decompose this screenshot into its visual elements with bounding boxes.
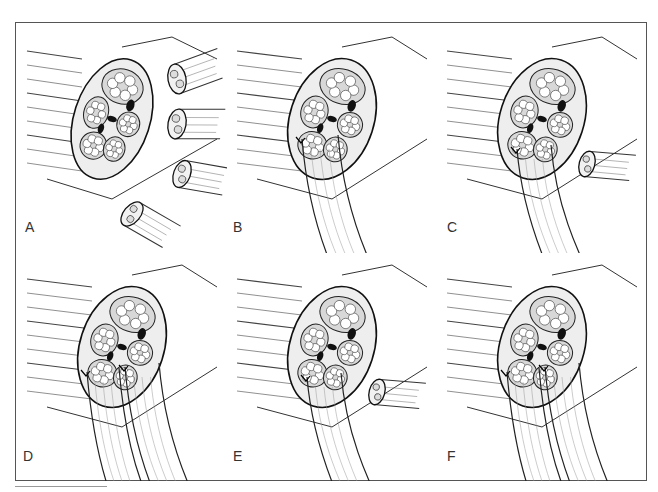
trunk-line <box>27 391 92 399</box>
stump-face <box>117 198 148 230</box>
trunk-line <box>27 163 82 171</box>
tissue-outline <box>552 265 637 287</box>
trunk-line <box>27 65 82 73</box>
stump-line <box>183 112 219 124</box>
trunk-line <box>447 293 512 301</box>
stump-face <box>166 63 189 96</box>
nerve-stump <box>164 49 224 96</box>
trunk-line <box>237 93 302 101</box>
nerve-illustration-e <box>227 252 437 481</box>
trunk-line <box>237 321 302 329</box>
trunk-line <box>447 307 512 315</box>
trunk-line <box>237 279 302 287</box>
trunk-line <box>27 79 82 87</box>
nerve-illustration-c <box>437 24 647 253</box>
stump-face <box>166 108 189 141</box>
tissue-outline <box>122 37 217 59</box>
panel-label-a: A <box>25 219 34 235</box>
tissue-outline <box>342 265 427 287</box>
tissue-outline <box>342 37 427 59</box>
tissue-outline <box>552 37 637 59</box>
trunk-line <box>27 93 82 101</box>
panel-label-d: D <box>23 448 33 464</box>
panel-f: F <box>437 252 647 481</box>
stump-face <box>169 158 194 190</box>
panel-e: E <box>227 252 437 481</box>
graft-edge <box>159 363 199 481</box>
trunk-line <box>27 279 92 287</box>
panel-a: A <box>17 24 227 253</box>
nerve-stump <box>366 370 426 417</box>
panel-b: B <box>227 24 437 253</box>
trunk-line <box>447 163 512 171</box>
nerve-illustration-a <box>17 24 227 253</box>
trunk-line <box>447 93 512 101</box>
panel-label-b: B <box>233 219 242 235</box>
stump-face <box>576 149 598 178</box>
nerve-illustration-b <box>227 24 437 253</box>
caption-rule <box>15 486 107 487</box>
trunk-line <box>447 279 512 287</box>
panel-d: D <box>17 252 227 481</box>
trunk-line <box>237 307 302 315</box>
trunk-line <box>27 307 92 315</box>
trunk-line <box>447 79 512 87</box>
stump-face <box>366 377 388 406</box>
trunk-line <box>27 51 82 59</box>
trunk-line <box>237 65 302 73</box>
trunk-line <box>27 293 92 301</box>
trunk-line <box>237 51 302 59</box>
trunk-line <box>237 391 302 399</box>
tissue-outline <box>132 265 217 287</box>
panel-label-e: E <box>233 448 242 464</box>
trunk-line <box>237 163 302 171</box>
panel-c: C <box>437 24 647 253</box>
stump-line <box>187 170 222 188</box>
nerve-illustration-f <box>437 252 647 481</box>
trunk-line <box>237 293 302 301</box>
panel-label-f: F <box>447 448 456 464</box>
panel-label-c: C <box>447 219 457 235</box>
trunk-line <box>447 51 512 59</box>
trunk-line <box>447 65 512 73</box>
trunk-line <box>237 79 302 87</box>
trunk-line <box>447 321 512 329</box>
graft-edge <box>579 363 619 481</box>
nerve-stump <box>169 150 227 202</box>
trunk-line <box>447 391 512 399</box>
stump-line <box>182 74 218 86</box>
nerve-stump <box>576 142 636 189</box>
stump-line <box>182 119 218 131</box>
nerve-cross-section <box>57 48 168 189</box>
nerve-stump <box>117 192 181 253</box>
trunk-line <box>27 321 92 329</box>
nerve-illustration-d <box>17 252 227 481</box>
